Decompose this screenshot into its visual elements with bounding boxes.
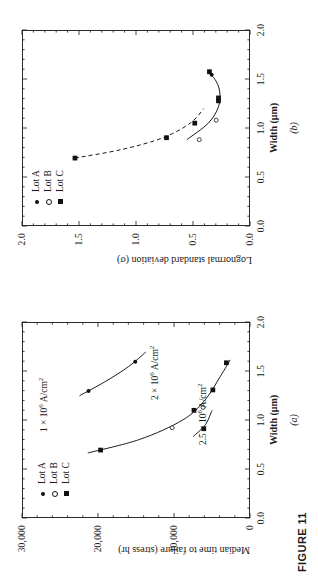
x-tick-label: 1.5	[256, 73, 266, 85]
legend-item: Lot A	[36, 462, 48, 500]
legend-item-label: Lot B	[42, 170, 54, 192]
filled-circle-glyph	[41, 492, 45, 496]
rotated-figure-wrapper: 0.00.51.01.52.0010,00020,00030,000 Lot A…	[0, 0, 318, 580]
legend-item: Lot B	[42, 170, 54, 208]
filled-circle-icon	[36, 488, 48, 500]
figure-root: 0.00.51.01.52.0010,00020,00030,000 Lot A…	[0, 0, 318, 580]
legend-item: Lot B	[48, 462, 60, 500]
legend-panel-b: Lot ALot BLot C	[30, 170, 66, 208]
x-axis-title-b: Width (μm)	[268, 103, 279, 153]
filled-square-glyph	[58, 200, 63, 205]
exponent: 6	[37, 404, 45, 408]
exponent: 2	[148, 346, 156, 350]
legend-item-label: Lot A	[30, 170, 42, 192]
legend-item-label: Lot C	[60, 462, 72, 484]
exponent: 6	[196, 410, 204, 414]
x-tick-label: 2.0	[256, 316, 266, 328]
exponent: 2	[196, 384, 204, 388]
figure-caption: FIGURE 11	[296, 512, 308, 572]
x-tick-label: 1.5	[256, 365, 266, 377]
filled-circle-icon	[30, 196, 42, 208]
chart-panel-b: 0.00.51.01.52.00.00.51.01.52.0 Lot ALot …	[0, 0, 318, 292]
y-axis-title-a: Median time to failure (stress hr)	[118, 545, 250, 556]
x-tick-label: 0.0	[256, 512, 266, 524]
annotation-current-density-2: 2 × 106 A/cm2	[148, 346, 160, 400]
legend-item: Lot C	[60, 462, 72, 500]
annotation-current-density-1: 1 × 106 A/cm2	[37, 378, 49, 432]
x-tick-label: 0.5	[256, 171, 266, 183]
y-tick-label: 30,000	[17, 525, 27, 580]
y-tick-label: 2.0	[17, 233, 27, 292]
y-tick-label: 20,000	[93, 525, 103, 580]
open-circle-glyph	[52, 491, 58, 497]
filled-square-icon	[54, 196, 66, 208]
panel-label-b: (b)	[288, 122, 299, 134]
open-circle-icon	[48, 488, 60, 500]
x-tick-label: 0.5	[256, 463, 266, 475]
x-tick-label: 0.0	[256, 220, 266, 232]
annotation-current-density-25: 2.5 × 106 A/cm2	[196, 384, 208, 445]
chart-panel-a: 0.00.51.01.52.0010,00020,00030,000 Lot A…	[0, 290, 318, 580]
open-circle-glyph	[46, 199, 52, 205]
panel-label-a: (a)	[288, 414, 299, 426]
y-axis-title-b: Lognormal standard deviation (σ)	[117, 255, 252, 266]
legend-panel-a: Lot ALot BLot C	[36, 462, 72, 500]
legend-item: Lot C	[54, 170, 66, 208]
x-tick-label: 2.0	[256, 24, 266, 36]
legend-item: Lot A	[30, 170, 42, 208]
filled-square-icon	[60, 488, 72, 500]
exponent: 2	[37, 378, 45, 382]
x-axis-title-a: Width (μm)	[268, 395, 279, 445]
x-tick-label: 1.0	[256, 122, 266, 134]
open-circle-icon	[42, 196, 54, 208]
x-tick-label: 1.0	[256, 414, 266, 426]
filled-square-glyph	[64, 492, 69, 497]
legend-item-label: Lot C	[54, 170, 66, 192]
exponent: 6	[148, 372, 156, 376]
y-tick-label: 1.5	[74, 233, 84, 292]
legend-item-label: Lot A	[36, 462, 48, 484]
filled-circle-glyph	[35, 200, 39, 204]
legend-item-label: Lot B	[48, 462, 60, 484]
